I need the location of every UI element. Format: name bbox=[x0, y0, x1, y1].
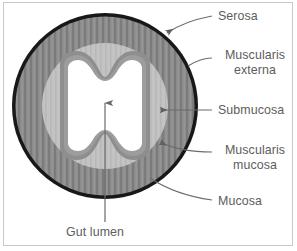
label-muscularis-externa-line2: externa bbox=[218, 63, 292, 78]
label-muscularis-mucosa-line2: mucosa bbox=[218, 158, 292, 173]
label-muscularis-mucosa: Muscularis mucosa bbox=[218, 143, 292, 172]
label-mucosa: Mucosa bbox=[218, 194, 262, 208]
label-muscularis-externa: Muscularis externa bbox=[218, 48, 292, 77]
label-gut-lumen: Gut lumen bbox=[66, 225, 124, 239]
label-submucosa: Submucosa bbox=[218, 103, 284, 117]
leader-muscularis-externa bbox=[188, 58, 212, 66]
gut-cross-section-figure: Serosa Muscularis externa Submucosa Musc… bbox=[0, 0, 297, 251]
label-serosa: Serosa bbox=[218, 9, 258, 23]
gut-cross-section-diagram bbox=[0, 0, 297, 251]
label-muscularis-externa-line1: Muscularis bbox=[218, 48, 292, 63]
label-muscularis-mucosa-line1: Muscularis bbox=[218, 143, 292, 158]
leader-serosa bbox=[167, 16, 212, 33]
